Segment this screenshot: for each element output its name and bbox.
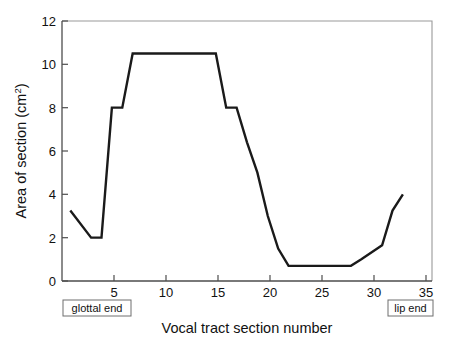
- plot-frame: [62, 21, 432, 281]
- y-tick-label: 12: [42, 14, 56, 29]
- x-axis-ticks: [114, 275, 426, 281]
- x-tick-label: 25: [315, 285, 329, 300]
- x-tick-label: 30: [367, 285, 381, 300]
- chart-figure: 0 2 4 6 8 10 12 5 10 15 20 25 30 35: [0, 0, 452, 351]
- lip-end-label: lip end: [394, 302, 426, 314]
- y-tick-label: 0: [49, 274, 56, 289]
- y-axis-title-suffix: ): [13, 83, 29, 88]
- y-axis-tick-labels: 0 2 4 6 8 10 12: [42, 14, 56, 289]
- y-tick-label: 8: [49, 101, 56, 116]
- y-axis-title: Area of section (cm2): [12, 83, 29, 218]
- lip-end-annotation: lip end: [388, 300, 433, 316]
- x-tick-label: 15: [211, 285, 225, 300]
- y-axis-title-main: Area of section (cm: [13, 94, 29, 219]
- x-tick-label: 20: [263, 285, 277, 300]
- y-tick-label: 6: [49, 144, 56, 159]
- svg-text:Area of section (cm2): Area of section (cm2): [12, 83, 29, 218]
- x-axis-title: Vocal tract section number: [162, 320, 333, 336]
- y-tick-label: 4: [49, 187, 56, 202]
- glottal-end-label: glottal end: [72, 302, 123, 314]
- y-tick-label: 2: [49, 231, 56, 246]
- x-axis-tick-labels: 5 10 15 20 25 30 35: [110, 285, 433, 300]
- x-tick-label: 5: [110, 285, 117, 300]
- y-axis-ticks: [62, 21, 68, 281]
- y-tick-label: 10: [42, 57, 56, 72]
- x-tick-label: 35: [419, 285, 433, 300]
- x-tick-label: 10: [159, 285, 173, 300]
- data-series-line: [70, 54, 403, 266]
- glottal-end-annotation: glottal end: [63, 300, 131, 316]
- chart-svg: 0 2 4 6 8 10 12 5 10 15 20 25 30 35: [0, 0, 452, 351]
